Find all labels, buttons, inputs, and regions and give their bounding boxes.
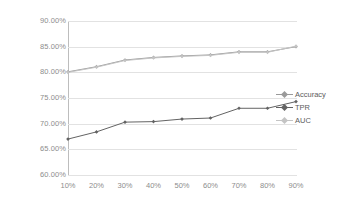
series-marker bbox=[95, 130, 99, 134]
chart-legend: AccuracyTPRAUC bbox=[276, 88, 326, 127]
series-marker bbox=[209, 54, 213, 58]
series-marker bbox=[123, 120, 127, 124]
series-marker bbox=[180, 117, 184, 121]
series-marker bbox=[152, 56, 156, 60]
legend-label: AUC bbox=[295, 116, 311, 125]
line-chart: 90.00%85.00%80.00%75.00%70.00%65.00%60.0… bbox=[0, 0, 361, 212]
legend-item-auc[interactable]: AUC bbox=[276, 114, 326, 127]
series-marker bbox=[266, 50, 270, 54]
series-marker bbox=[237, 50, 241, 54]
series-marker bbox=[123, 59, 127, 63]
series-line bbox=[68, 46, 296, 72]
series-marker bbox=[180, 55, 184, 59]
series-marker bbox=[66, 137, 70, 141]
legend-item-tpr[interactable]: TPR bbox=[276, 101, 326, 114]
series-marker bbox=[209, 116, 213, 120]
series-marker bbox=[152, 120, 156, 124]
legend-swatch-icon bbox=[276, 116, 293, 125]
series-marker bbox=[294, 44, 298, 48]
legend-item-accuracy[interactable]: Accuracy bbox=[276, 88, 326, 101]
series-marker bbox=[237, 106, 241, 110]
legend-label: TPR bbox=[295, 103, 310, 112]
series-marker bbox=[66, 70, 70, 74]
legend-swatch-icon bbox=[276, 103, 293, 112]
legend-label: Accuracy bbox=[295, 90, 326, 99]
series-line bbox=[68, 47, 296, 72]
series-marker bbox=[266, 106, 270, 110]
legend-swatch-icon bbox=[276, 90, 293, 99]
